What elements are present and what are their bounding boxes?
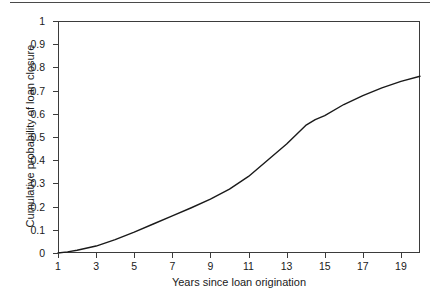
- x-tick-label: 9: [195, 261, 225, 272]
- x-tick-label: 5: [119, 261, 149, 272]
- x-tick-label: 19: [386, 261, 416, 272]
- y-tick-mark: [53, 114, 58, 115]
- x-tick-mark: [58, 253, 59, 258]
- x-tick-label: 17: [348, 261, 378, 272]
- y-tick-mark: [53, 137, 58, 138]
- x-tick-mark: [172, 253, 173, 258]
- y-tick-mark: [53, 67, 58, 68]
- x-tick-mark: [134, 253, 135, 258]
- y-tick-label: 0: [39, 248, 45, 259]
- x-tick-label: 13: [272, 261, 302, 272]
- x-tick-label: 1: [43, 261, 73, 272]
- x-tick-mark: [325, 253, 326, 258]
- x-tick-mark: [96, 253, 97, 258]
- y-tick-mark: [53, 91, 58, 92]
- y-tick-mark: [53, 207, 58, 208]
- y-tick-mark: [53, 230, 58, 231]
- x-tick-label: 11: [234, 261, 264, 272]
- y-tick-mark: [53, 44, 58, 45]
- y-axis-title: Cumulative probability of loan closure: [24, 29, 36, 244]
- x-tick-label: 7: [157, 261, 187, 272]
- x-tick-mark: [401, 253, 402, 258]
- x-tick-mark: [210, 253, 211, 258]
- x-tick-mark: [249, 253, 250, 258]
- y-tick-mark: [53, 21, 58, 22]
- y-tick-mark: [53, 160, 58, 161]
- chart-figure: 00.10.20.30.40.50.60.70.80.91 1357911131…: [0, 0, 438, 299]
- x-tick-mark: [287, 253, 288, 258]
- cumulative-probability-curve: [58, 21, 420, 253]
- y-tick-label: 1: [39, 16, 45, 27]
- y-tick-mark: [53, 183, 58, 184]
- x-axis-title: Years since loan origination: [58, 276, 420, 288]
- x-tick-label: 15: [310, 261, 340, 272]
- header-divider-rule: [10, 2, 430, 3]
- x-tick-mark: [363, 253, 364, 258]
- x-tick-label: 3: [81, 261, 111, 272]
